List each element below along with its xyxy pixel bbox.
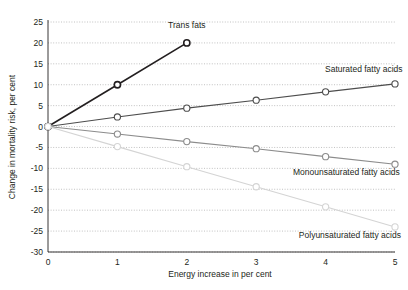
data-point-marker bbox=[184, 139, 190, 145]
y-tick-label: 20 bbox=[34, 38, 44, 48]
y-tick-label: -15 bbox=[31, 184, 44, 194]
y-tick-label: 15 bbox=[34, 59, 44, 69]
y-tick-label: 10 bbox=[34, 80, 44, 90]
x-tick-label: 1 bbox=[115, 257, 120, 267]
data-point-marker bbox=[114, 114, 120, 120]
y-tick-label: -25 bbox=[31, 226, 44, 236]
y-tick-label: 25 bbox=[34, 17, 44, 27]
x-tick-label: 0 bbox=[46, 257, 51, 267]
data-point-marker bbox=[184, 40, 190, 46]
data-point-marker bbox=[114, 131, 120, 137]
data-point-marker bbox=[45, 123, 51, 129]
data-point-marker bbox=[253, 97, 259, 103]
y-tick-label: 0 bbox=[38, 122, 43, 132]
x-tick-label: 2 bbox=[184, 257, 189, 267]
data-point-marker bbox=[323, 204, 329, 210]
data-point-marker bbox=[323, 154, 329, 160]
data-point-marker bbox=[323, 89, 329, 95]
data-point-marker bbox=[392, 81, 398, 87]
series-label-monounsaturated-fatty-acids: Monounsaturated fatty acids bbox=[293, 167, 400, 177]
y-tick-label: 5 bbox=[38, 101, 43, 111]
x-tick-label: 5 bbox=[393, 257, 398, 267]
series-label-saturated-fatty-acids: Saturated fatty acids bbox=[325, 64, 403, 74]
y-tick-label: -20 bbox=[31, 205, 44, 215]
data-point-marker bbox=[253, 184, 259, 190]
y-tick-label: -30 bbox=[31, 247, 44, 257]
y-axis-title: Change in mortality risk, per cent bbox=[7, 74, 17, 199]
x-tick-label: 3 bbox=[254, 257, 259, 267]
data-point-marker bbox=[253, 146, 259, 152]
series-label-polyunsaturated-fatty-acids: Polyunsaturated fatty acids bbox=[299, 230, 401, 240]
y-tick-label: -5 bbox=[35, 142, 43, 152]
x-axis-title: Energy increase in per cent bbox=[168, 269, 272, 279]
mortality-risk-line-chart: 2520151050-5-10-15-20-25-30 012345 Trans… bbox=[0, 0, 408, 290]
data-point-marker bbox=[184, 105, 190, 111]
data-point-marker bbox=[184, 164, 190, 170]
chart-background bbox=[0, 0, 408, 290]
series-label-trans-fats: Trans fats bbox=[168, 20, 205, 30]
chart-canvas: 2520151050-5-10-15-20-25-30 012345 Trans… bbox=[0, 0, 408, 290]
data-point-marker bbox=[114, 144, 120, 150]
data-point-marker bbox=[114, 82, 120, 88]
x-tick-label: 4 bbox=[323, 257, 328, 267]
y-tick-label: -10 bbox=[31, 163, 44, 173]
